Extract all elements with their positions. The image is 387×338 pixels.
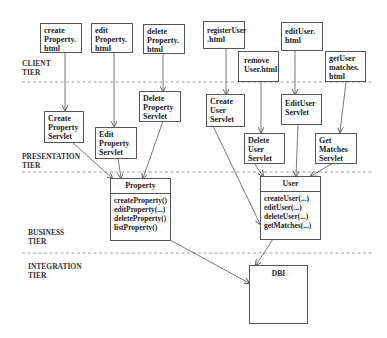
box-text: Edit: [99, 130, 133, 139]
tier-label-line: TIER: [28, 271, 82, 280]
box-text: html: [329, 72, 362, 81]
box-text: Matches: [319, 145, 353, 154]
box-text: delete: [147, 27, 181, 36]
box-text: getUser: [329, 54, 362, 63]
create-property-html-box[interactable]: create Property. html: [40, 23, 82, 53]
box-text: html: [44, 44, 78, 53]
box-text: html: [147, 45, 181, 54]
box-text: Property: [99, 139, 133, 148]
create-user-servlet-box[interactable]: Create User Servlet: [206, 94, 245, 127]
box-text: .html: [207, 35, 241, 44]
dbi-title: DBI: [250, 269, 307, 278]
remove-user-html-box[interactable]: remove User.html: [238, 51, 279, 82]
box-text: User: [248, 145, 281, 154]
delete-property-html-box[interactable]: delete Property. html: [143, 24, 185, 54]
box-text: Servlet: [99, 148, 133, 157]
tier-label-client: CLIENT TIER: [22, 59, 51, 77]
tier-label-line: TIER: [28, 237, 64, 246]
edit-property-servlet-box[interactable]: Edit Property Servlet: [95, 127, 137, 159]
box-text: Property: [48, 123, 80, 132]
box-text: Get: [319, 136, 353, 145]
box-text: Servlet: [210, 115, 241, 124]
box-text: Delete: [248, 136, 281, 145]
tier-label-line: BUSINESS: [28, 228, 64, 237]
tier-label-business: BUSINESS TIER: [28, 228, 64, 246]
box-text: Property.: [147, 36, 181, 45]
operation: editProperty(...): [114, 205, 167, 214]
operation: deleteUser(...): [264, 212, 317, 221]
tier-label-integration: INTEGRATION TIER: [28, 262, 82, 280]
box-text: Property: [143, 103, 177, 112]
create-property-servlet-box[interactable]: Create Property Servlet: [44, 111, 84, 143]
box-text: html: [95, 44, 129, 53]
tier-label-line: TIER: [22, 68, 51, 77]
delete-user-servlet-box[interactable]: Delete User Servlet: [244, 133, 285, 164]
box-text: Servlet: [319, 154, 353, 163]
box-text: User.html: [244, 65, 275, 74]
box-text: edit: [95, 26, 129, 35]
get-matches-servlet-box[interactable]: Get Matches Servlet: [315, 133, 357, 164]
edit-property-html-box[interactable]: edit Property. html: [91, 23, 133, 53]
box-text: Servlet: [248, 154, 281, 163]
box-text: Property.: [44, 35, 78, 44]
box-text: remove: [244, 56, 275, 65]
box-text: Servlet: [143, 112, 177, 121]
class-operations: createProperty() editProperty(...) delet…: [111, 194, 170, 234]
user-class-box[interactable]: User createUser(...) editUser(...) delet…: [260, 176, 321, 240]
class-operations: createUser(...) editUser(...) deleteUser…: [261, 192, 320, 232]
box-text: Servlet: [285, 108, 318, 117]
delete-property-servlet-box[interactable]: Delete Property Servlet: [139, 91, 181, 122]
box-text: Property.: [95, 35, 129, 44]
operation: editUser(...): [264, 203, 317, 212]
register-user-html-box[interactable]: registerUser .html: [203, 21, 245, 49]
class-name: User: [261, 177, 320, 192]
edituser-servlet-box[interactable]: EditUser Servlet: [281, 94, 322, 125]
edit-user-html-box[interactable]: editUser. html: [281, 22, 323, 51]
box-text: Create: [210, 97, 241, 106]
property-class-box[interactable]: Property createProperty() editProperty(.…: [110, 178, 171, 241]
tier-label-presentation: PRESENTATION TIER: [22, 152, 80, 170]
box-text: editUser.: [285, 27, 319, 36]
box-text: html: [285, 36, 319, 45]
box-text: EditUser: [285, 99, 318, 108]
get-user-matches-html-box[interactable]: getUser matches. html: [325, 51, 366, 82]
operation: deleteProperty(): [114, 214, 167, 223]
operation: getMatches(...): [264, 221, 317, 230]
class-name: Property: [111, 179, 170, 194]
box-text: Servlet: [48, 132, 80, 141]
box-text: Create: [48, 114, 80, 123]
dbi-box[interactable]: DBI: [249, 265, 308, 324]
box-text: matches.: [329, 63, 362, 72]
operation: createProperty(): [114, 196, 167, 205]
tier-label-line: CLIENT: [22, 59, 51, 68]
tier-label-line: PRESENTATION: [22, 152, 80, 161]
box-text: registerUser: [207, 26, 241, 35]
operation: listProperty(): [114, 223, 167, 232]
tier-label-line: INTEGRATION: [28, 262, 82, 271]
box-text: Delete: [143, 94, 177, 103]
tier-label-line: TIER: [22, 161, 80, 170]
box-text: User: [210, 106, 241, 115]
box-text: create: [44, 26, 78, 35]
operation: createUser(...): [264, 194, 317, 203]
